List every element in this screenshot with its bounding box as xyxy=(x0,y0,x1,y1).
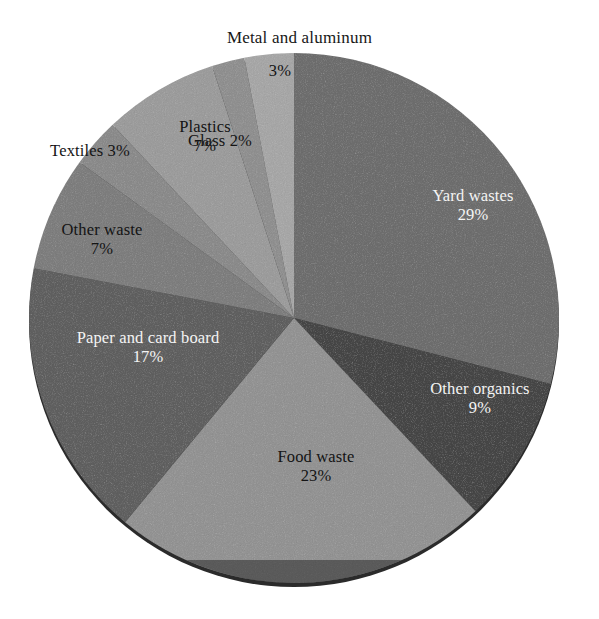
pie-slices xyxy=(29,53,559,583)
pie-chart-figure: Metal and aluminum xyxy=(0,0,599,619)
pie-svg xyxy=(0,0,599,619)
